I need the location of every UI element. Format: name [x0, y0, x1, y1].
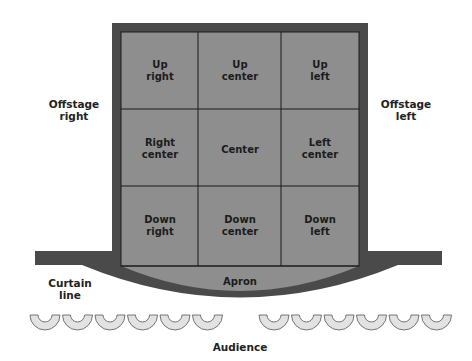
seat-icon [30, 315, 60, 330]
seat-icon [193, 315, 223, 330]
audience-label: Audience [213, 341, 268, 353]
stage-diagram: Upright Upcenter Upleft Rightcenter Cent… [0, 0, 472, 361]
offstage-left-label: Offstageleft [381, 98, 431, 122]
seat-icon [63, 315, 93, 330]
seat-icon [128, 315, 158, 330]
area-up-left: Upleft [310, 59, 330, 82]
seat-icon [422, 315, 452, 330]
seat-icon [95, 315, 125, 330]
offstage-right-label: Offstageright [49, 98, 99, 122]
seat-icon [259, 315, 289, 330]
audience-seats [30, 315, 452, 330]
area-down-right: Downright [144, 214, 176, 237]
area-right-center: Rightcenter [142, 137, 178, 160]
area-center: Center [221, 144, 259, 155]
apron-label: Apron [223, 276, 257, 287]
curtain-line-label: Curtainline [48, 277, 92, 301]
seat-icon [389, 315, 419, 330]
seat-icon [292, 315, 322, 330]
seat-icon [160, 315, 190, 330]
area-down-center: Downcenter [222, 214, 258, 237]
seat-icon [324, 315, 354, 330]
seat-icon [357, 315, 387, 330]
